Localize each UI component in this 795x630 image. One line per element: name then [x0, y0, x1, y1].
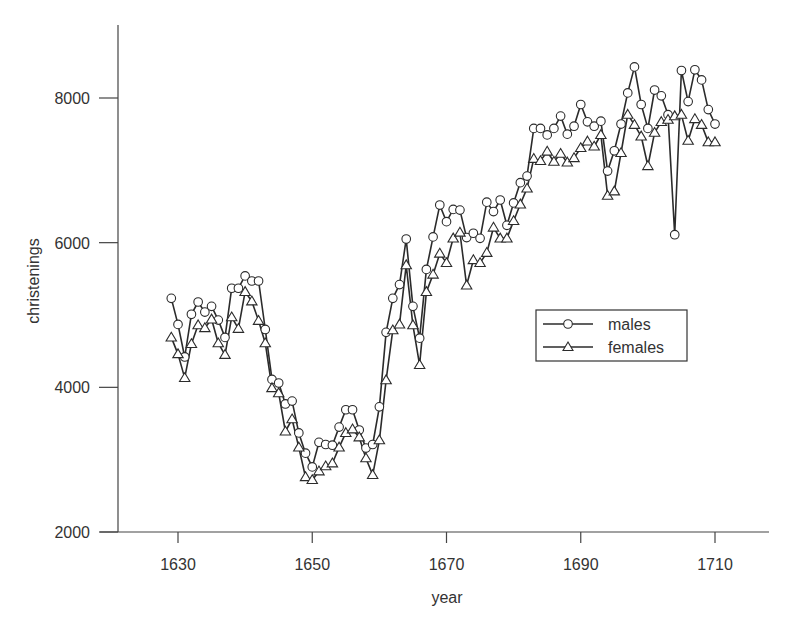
triangle-marker-icon: [435, 248, 445, 257]
circle-marker-icon: [684, 97, 693, 106]
y-tick-label: 6000: [54, 235, 90, 252]
circle-marker-icon: [556, 112, 565, 121]
circle-marker-icon: [496, 196, 505, 205]
x-axis-title: year: [431, 589, 463, 606]
circle-marker-icon: [442, 217, 451, 226]
circle-marker-icon: [697, 76, 706, 85]
triangle-marker-icon: [676, 109, 686, 118]
circle-marker-icon: [207, 302, 216, 311]
triangle-marker-icon: [327, 458, 337, 467]
y-axis-ticks: 2000400060008000: [54, 90, 118, 541]
x-tick-label: 1690: [563, 556, 599, 573]
circle-marker-icon: [174, 320, 183, 329]
legend-label-females: females: [608, 339, 664, 356]
x-tick-label: 1650: [294, 556, 330, 573]
circle-marker-icon: [308, 463, 317, 472]
circle-marker-icon: [564, 320, 573, 329]
circle-marker-icon: [570, 122, 579, 131]
circle-marker-icon: [415, 334, 424, 343]
circle-marker-icon: [550, 124, 559, 133]
circle-marker-icon: [375, 403, 384, 412]
circle-marker-icon: [516, 178, 525, 187]
circle-marker-icon: [254, 277, 263, 286]
y-tick-label: 4000: [54, 379, 90, 396]
circle-marker-icon: [348, 405, 357, 414]
circle-marker-icon: [335, 423, 344, 432]
circle-marker-icon: [402, 235, 411, 244]
circle-marker-icon: [221, 333, 230, 342]
circle-marker-icon: [637, 100, 646, 109]
circle-marker-icon: [623, 89, 632, 98]
circle-marker-icon: [563, 130, 572, 139]
circle-marker-icon: [274, 379, 283, 388]
circle-marker-icon: [523, 172, 532, 181]
circle-marker-icon: [603, 167, 612, 176]
circle-marker-icon: [670, 230, 679, 239]
circle-marker-icon: [295, 429, 304, 438]
triangle-marker-icon: [280, 426, 290, 435]
circle-marker-icon: [476, 234, 485, 243]
triangle-marker-icon: [414, 360, 424, 369]
circle-marker-icon: [288, 397, 297, 406]
triangle-marker-icon: [461, 280, 471, 289]
legend-label-males: males: [608, 316, 651, 333]
circle-marker-icon: [234, 284, 243, 293]
triangle-marker-icon: [166, 332, 176, 341]
circle-marker-icon: [489, 207, 498, 216]
triangle-marker-icon: [569, 153, 579, 162]
circle-marker-icon: [536, 124, 545, 133]
y-tick-label: 8000: [54, 90, 90, 107]
circle-marker-icon: [657, 92, 666, 101]
circle-marker-icon: [543, 131, 552, 140]
circle-marker-icon: [187, 310, 196, 319]
x-tick-label: 1710: [697, 556, 733, 573]
triangle-marker-icon: [683, 135, 693, 144]
triangle-marker-icon: [596, 130, 606, 139]
triangle-marker-icon: [629, 120, 639, 129]
triangle-marker-icon: [367, 470, 377, 479]
x-tick-label: 1670: [429, 556, 465, 573]
circle-marker-icon: [704, 105, 713, 114]
triangle-marker-icon: [643, 161, 653, 170]
circle-marker-icon: [409, 302, 418, 311]
triangle-marker-icon: [421, 287, 431, 296]
triangle-marker-icon: [482, 248, 492, 257]
circle-marker-icon: [395, 280, 404, 289]
series-layer: [166, 63, 720, 484]
triangle-marker-icon: [609, 186, 619, 195]
circle-marker-icon: [435, 201, 444, 210]
triangle-marker-icon: [582, 136, 592, 145]
triangle-marker-icon: [636, 131, 646, 140]
triangle-marker-icon: [233, 324, 243, 333]
x-axis-ticks: 16301650167016901710: [160, 532, 733, 573]
triangle-marker-icon: [253, 316, 263, 325]
x-tick-label: 1630: [160, 556, 196, 573]
circle-marker-icon: [617, 120, 626, 129]
circle-marker-icon: [597, 117, 606, 126]
circle-marker-icon: [711, 120, 720, 129]
circle-marker-icon: [429, 233, 438, 242]
y-axis-title: christenings: [25, 238, 42, 323]
plot-area: 2000400060008000 16301650167016901710: [54, 25, 769, 573]
y-tick-label: 2000: [54, 524, 90, 541]
circle-marker-icon: [677, 66, 686, 75]
circle-marker-icon: [261, 325, 270, 334]
triangle-marker-icon: [394, 319, 404, 328]
circle-marker-icon: [194, 298, 203, 307]
triangle-marker-icon: [542, 146, 552, 155]
circle-marker-icon: [576, 100, 585, 109]
circle-marker-icon: [630, 63, 639, 72]
triangle-marker-icon: [488, 222, 498, 231]
circle-marker-icon: [644, 124, 653, 133]
legend: males females: [536, 310, 687, 361]
triangle-marker-icon: [361, 453, 371, 462]
circle-marker-icon: [389, 294, 398, 303]
triangle-marker-icon: [555, 148, 565, 157]
circle-marker-icon: [482, 198, 491, 207]
circle-marker-icon: [456, 206, 465, 215]
triangle-marker-icon: [180, 373, 190, 382]
circle-marker-icon: [691, 65, 700, 74]
circle-marker-icon: [422, 265, 431, 274]
triangle-marker-icon: [260, 338, 270, 347]
triangle-marker-icon: [455, 227, 465, 236]
